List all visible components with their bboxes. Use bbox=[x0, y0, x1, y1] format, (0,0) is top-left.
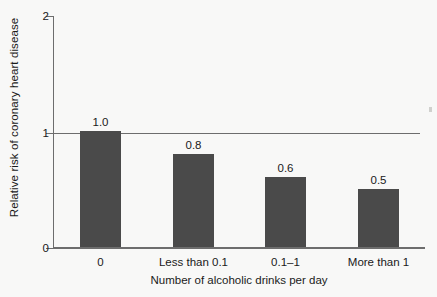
x-tick-label-3: More than 1 bbox=[348, 256, 409, 268]
bar-2: 0.6 bbox=[265, 177, 306, 247]
bar-1: 0.8 bbox=[173, 154, 214, 247]
y-tick-label-2: 2 bbox=[43, 10, 49, 22]
bar-value-0: 1.0 bbox=[93, 116, 109, 128]
x-axis-line bbox=[53, 247, 425, 249]
bar-value-3: 0.5 bbox=[371, 174, 387, 186]
plot-area: 2 1 0 1.0 0.8 0.6 0.5 0 Less than 0.1 0.… bbox=[53, 16, 425, 248]
x-tick-label-0: 0 bbox=[97, 256, 103, 268]
bar-3: 0.5 bbox=[358, 189, 399, 247]
y-tick-label-0: 0 bbox=[43, 242, 49, 254]
y-tick-label-1: 1 bbox=[43, 127, 49, 139]
y-axis-title: Relative risk of coronary heart disease bbox=[3, 0, 25, 266]
x-tick-label-2: 0.1–1 bbox=[271, 256, 300, 268]
bar-chart-figure: Relative risk of coronary heart disease … bbox=[0, 0, 437, 297]
page-artifact-speck bbox=[429, 107, 432, 112]
x-tick-label-1: Less than 0.1 bbox=[159, 256, 228, 268]
bar-0: 1.0 bbox=[80, 131, 121, 247]
x-axis-title: Number of alcoholic drinks per day bbox=[53, 274, 425, 286]
bar-value-2: 0.6 bbox=[278, 162, 294, 174]
bar-value-1: 0.8 bbox=[186, 139, 202, 151]
